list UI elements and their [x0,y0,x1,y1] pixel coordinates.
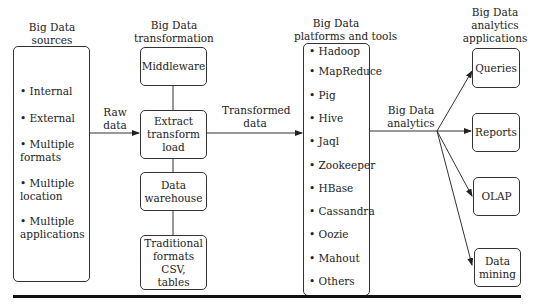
platform-item: • Mahout [309,252,360,265]
queries-box: Queries [472,48,520,88]
platform-item: • Pig [309,89,336,102]
analytics-label: Big Data analytics [384,104,438,130]
data-mining-box: Data mining [474,248,521,287]
source-item: • Multiple formats [20,138,86,164]
etl-box: Extract transform load [140,110,207,159]
reports-box: Reports [472,113,520,152]
bottom-rule [13,295,521,298]
raw-data-label: Raw data [100,106,130,132]
platform-item: • Hadoop [309,45,360,58]
applications-title: Big Data analytics applications [462,6,528,45]
transformed-data-label: Transformed data [222,104,288,130]
traditional-formats-box: Traditional formats CSV, tables [140,235,207,290]
source-item: • Multiple location [20,177,86,203]
sources-title: Big Data sources [13,21,91,47]
source-item: • Internal [20,85,72,98]
source-item: • External [20,112,75,125]
platform-item: • Jaql [309,135,339,148]
platform-item: • Hive [309,112,343,125]
platform-item: • Oozie [309,228,349,241]
platform-item: • MapReduce [309,65,382,78]
data-warehouse-box: Data warehouse [140,172,207,211]
middleware-box: Middleware [140,47,207,86]
platforms-title: Big Data platforms and tools [294,17,378,43]
transformation-title: Big Data transformation [132,19,216,45]
platforms-box: • Hadoop • MapReduce • Pig • Hive • Jaql… [303,43,370,296]
sources-box: • Internal • External • Multiple formats… [13,46,90,282]
platform-item: • Others [309,275,355,288]
sources-title-line1: Big Data [13,21,91,34]
olap-box: OLAP [473,177,520,216]
source-item: • Multiple applications [20,215,88,241]
platform-item: • Zookeeper [309,159,375,172]
platform-item: • Cassandra [309,205,375,218]
platform-item: • HBase [309,182,353,195]
